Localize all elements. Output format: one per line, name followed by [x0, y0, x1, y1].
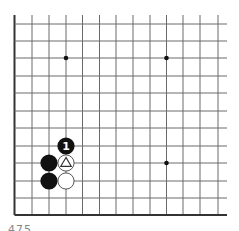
- star-point-icon: [164, 56, 169, 61]
- white-stone: [58, 173, 74, 189]
- diagram-caption: 475: [8, 224, 32, 231]
- go-board-diagram: 1: [0, 0, 239, 231]
- white-stone: [58, 155, 74, 171]
- move-number-label: 1: [62, 140, 70, 153]
- black-stone: [40, 154, 57, 171]
- star-point-icon: [64, 56, 69, 61]
- black-stone-icon: [40, 154, 57, 171]
- star-point-icon: [164, 161, 169, 166]
- black-stone-icon: [40, 172, 57, 189]
- black-stone: [40, 172, 57, 189]
- stones: 1: [40, 137, 74, 189]
- black-stone: 1: [57, 137, 74, 154]
- white-stone-icon: [58, 173, 74, 189]
